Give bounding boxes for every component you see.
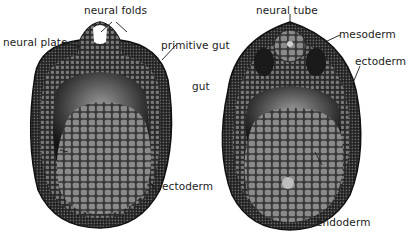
label-ectoderm-left: ectoderm: [162, 180, 213, 192]
label-ectoderm-right: ectoderm: [355, 55, 406, 67]
label-mesoderm: mesoderm: [339, 28, 396, 40]
diagram-canvas: neural folds neural plate primitive gut …: [0, 0, 409, 233]
neural-canal: [287, 41, 293, 47]
yolk-endoderm: [57, 102, 151, 214]
right-embryo-section: [222, 22, 360, 230]
yolk-vesicle: [282, 177, 294, 189]
label-neural-folds: neural folds: [84, 4, 147, 16]
label-gut: gut: [192, 80, 210, 92]
label-primitive-gut: primitive gut: [161, 39, 230, 51]
label-neural-tube: neural tube: [256, 4, 318, 16]
label-neural-plate: neural plate: [3, 36, 68, 48]
left-embryo-section: [31, 22, 172, 228]
label-endoderm: endoderm: [316, 216, 371, 228]
left-somite-cavity: [254, 48, 274, 76]
yolk-endoderm-right: [244, 108, 343, 222]
right-somite-cavity: [306, 48, 326, 76]
